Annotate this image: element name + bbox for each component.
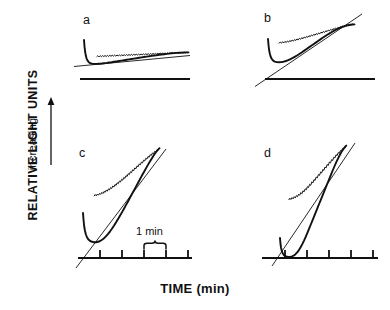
panel-d-tangent-line xyxy=(272,143,355,266)
scale-bar-label: 1 min xyxy=(136,225,163,237)
panel-d xyxy=(262,143,378,266)
x-axis-label: TIME (min) xyxy=(0,281,390,296)
panel-label-d: d xyxy=(264,146,271,160)
scale-bar-brace xyxy=(144,241,166,249)
panel-label-a: a xyxy=(83,13,90,27)
panel-label-c: c xyxy=(79,146,85,160)
panel-c-tangent-line xyxy=(76,149,166,268)
panel-a xyxy=(74,40,190,79)
up-arrow-icon xyxy=(48,97,55,165)
panel-c xyxy=(76,148,192,268)
panel-d-trace xyxy=(280,146,346,257)
panel-b xyxy=(255,14,375,87)
panel-a-trace-noise xyxy=(97,52,188,57)
panel-label-b: b xyxy=(264,11,271,25)
panel-b-trace-noise xyxy=(279,24,353,43)
panel-d-trace-noise xyxy=(289,147,346,200)
figure-canvas: RELATIVE LIGHT UNITS increasing xyxy=(0,0,390,310)
panel-a-tangent-line xyxy=(74,56,190,67)
figure-svg xyxy=(0,0,390,310)
panel-c-ticks xyxy=(100,250,188,258)
